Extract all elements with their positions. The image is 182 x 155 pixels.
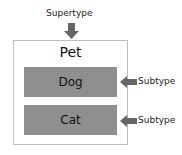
subtype-annotation-dog: Subtype <box>138 76 175 86</box>
left-arrow-icon <box>120 115 137 127</box>
left-arrow-icon <box>120 76 137 88</box>
supertype-label: Supertype <box>46 8 92 18</box>
down-arrow-icon <box>64 23 80 40</box>
subtype-box-dog: Dog <box>24 67 117 97</box>
subtype-annotation-cat: Subtype <box>138 115 175 125</box>
supertype-title: Pet <box>13 44 128 60</box>
subtype-box-cat: Cat <box>24 105 117 135</box>
